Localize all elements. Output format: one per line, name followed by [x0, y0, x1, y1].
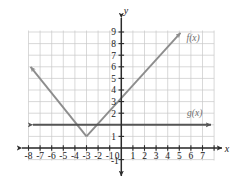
x-tick-label-4: 4: [165, 151, 170, 161]
x-tick-label--5: -5: [59, 151, 67, 161]
y-tick-label-6: 6: [111, 62, 116, 72]
y-tick-label-2: 2: [111, 109, 116, 119]
x-tick-label-5: 5: [177, 151, 182, 161]
x-tick-label-6: 6: [189, 151, 194, 161]
x-axis-name: x: [224, 143, 230, 154]
x-tick-label-1: 1: [131, 151, 136, 161]
y-tick-label-7: 7: [111, 51, 116, 61]
y-tick-label-9: 9: [111, 27, 116, 37]
x-tick-label--4: -4: [71, 151, 79, 161]
x-tick-label-7: 7: [200, 151, 205, 161]
x-tick-label--3: -3: [83, 151, 91, 161]
x-tick-label--6: -6: [48, 151, 56, 161]
curve-label-f: f(x): [187, 33, 200, 44]
x-tick-label-2: 2: [142, 151, 147, 161]
x-tick-label--7: -7: [36, 151, 44, 161]
y-tick-label-1: 1: [111, 132, 116, 142]
coordinate-plane-plot: -8 -7 -6 -5 -4 -3 -2 -1 0 1 2 3 4 5 6 7 …: [0, 0, 240, 182]
y-tick-label-4: 4: [111, 85, 116, 95]
graph-figure: -8 -7 -6 -5 -4 -3 -2 -1 0 1 2 3 4 5 6 7 …: [0, 0, 240, 182]
x-tick-label--8: -8: [25, 151, 33, 161]
y-tick-label-3: 3: [111, 97, 116, 107]
curve-label-g: g(x): [187, 108, 202, 119]
y-tick-label-5: 5: [111, 74, 116, 84]
y-tick-label-8: 8: [111, 39, 116, 49]
y-axis-name: y: [123, 5, 129, 16]
x-tick-label-3: 3: [154, 151, 159, 161]
x-tick-label--2: -2: [94, 151, 102, 161]
y-tick-label--1: -1: [111, 156, 119, 166]
